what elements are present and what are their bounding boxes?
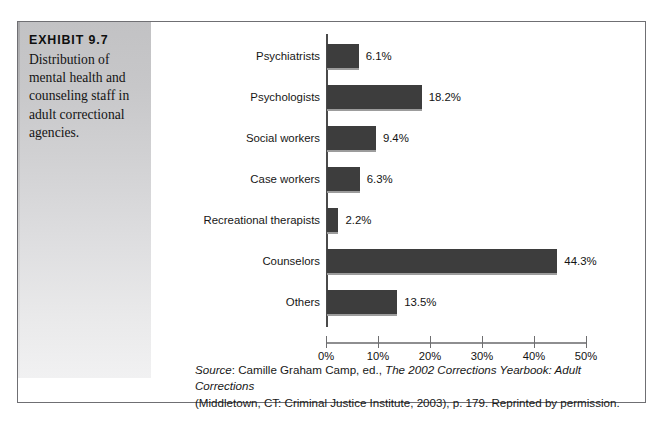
bar <box>327 85 422 111</box>
exhibit-caption: Distribution of mental health and counse… <box>29 51 141 142</box>
bar <box>327 249 557 275</box>
source-note: Source: Camille Graham Camp, ed., The 20… <box>195 362 627 411</box>
bar-value-label: 6.3% <box>367 173 393 186</box>
exhibit-number: EXHIBIT 9.7 <box>29 33 108 47</box>
bar <box>327 290 397 316</box>
category-label: Others <box>286 296 320 309</box>
source-label: Source <box>195 363 232 376</box>
category-label: Psychologists <box>250 91 320 104</box>
figure-frame: EXHIBIT 9.7 Distribution of mental healt… <box>17 21 646 403</box>
x-axis-line <box>326 342 586 344</box>
bar-value-label: 2.2% <box>345 214 371 227</box>
bar-value-label: 13.5% <box>404 296 436 309</box>
caption-panel: EXHIBIT 9.7 Distribution of mental healt… <box>18 22 151 378</box>
source-line2: (Middletown, CT: Criminal Justice Instit… <box>195 396 620 409</box>
x-axis-tick <box>430 336 431 348</box>
bar <box>327 44 359 70</box>
category-label: Social workers <box>246 132 320 145</box>
x-axis-tick <box>534 336 535 348</box>
category-label: Counselors <box>262 255 320 268</box>
category-label: Psychiatrists <box>256 50 320 63</box>
bar-value-label: 6.1% <box>366 50 392 63</box>
category-label: Recreational therapists <box>204 214 321 227</box>
exhibit-figure: EXHIBIT 9.7 Distribution of mental healt… <box>0 0 668 430</box>
x-axis-tick <box>586 336 587 348</box>
bar-value-label: 18.2% <box>429 91 461 104</box>
category-label: Case workers <box>250 173 320 186</box>
bar-chart: Psychiatrists6.1%Psychologists18.2%Socia… <box>151 22 645 402</box>
x-axis-tick <box>378 336 379 348</box>
bar <box>327 208 338 234</box>
x-axis-tick <box>482 336 483 348</box>
bar-value-label: 44.3% <box>564 255 596 268</box>
x-axis-tick <box>326 336 327 348</box>
bar <box>327 167 360 193</box>
bar-value-label: 9.4% <box>383 132 409 145</box>
source-line1-pre: : Camille Graham Camp, ed., <box>232 363 385 376</box>
bar <box>327 126 376 152</box>
